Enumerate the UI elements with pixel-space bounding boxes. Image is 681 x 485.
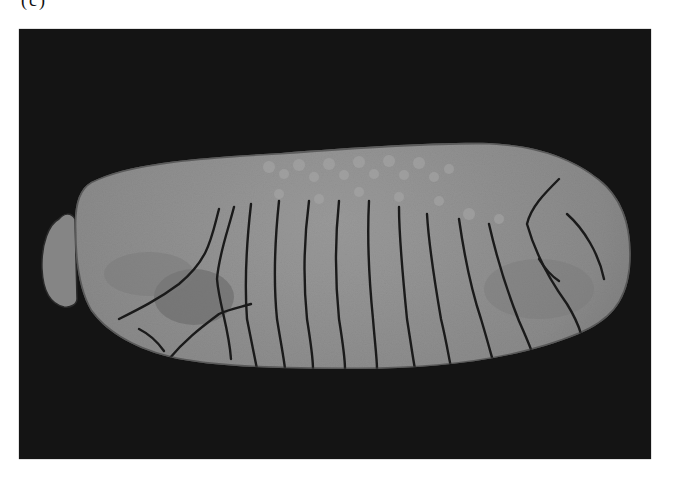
specimen-photo: Grayscale photograph of a segmented, elo… <box>19 29 651 459</box>
specimen-illustration <box>19 29 651 459</box>
panel-label: (c) <box>21 0 47 9</box>
specimen-head-cap <box>42 214 77 307</box>
